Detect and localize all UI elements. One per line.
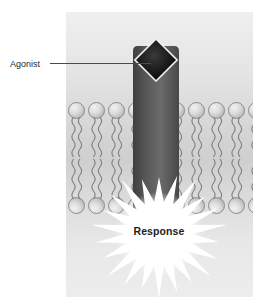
- lipid-head: [228, 197, 245, 214]
- lipid-tails: [247, 158, 253, 199]
- phospholipid-icon: [227, 158, 247, 214]
- phospholipid-icon: [247, 158, 253, 214]
- phospholipid-icon: [67, 102, 87, 158]
- lipid-tails: [227, 158, 247, 199]
- lipid-head: [68, 197, 85, 214]
- phospholipid-icon: [87, 102, 107, 158]
- agonist-leader-line: [50, 63, 151, 64]
- response-label: Response: [92, 225, 226, 237]
- agonist-callout-label: Agonist: [10, 57, 70, 71]
- lipid-tails: [247, 117, 253, 158]
- agonist-diamond-icon: [134, 38, 178, 82]
- lipid-tails: [87, 117, 107, 158]
- lipid-tails: [227, 117, 247, 158]
- lipid-tails: [187, 117, 207, 158]
- lipid-tails: [107, 117, 127, 158]
- phospholipid-icon: [247, 102, 253, 158]
- figure-canvas: Response Agonist: [0, 0, 275, 306]
- lipid-tails: [207, 117, 227, 158]
- phospholipid-icon: [187, 102, 207, 158]
- lipid-tails: [67, 158, 87, 199]
- illustration-panel: Response: [66, 12, 253, 297]
- lipid-tails: [67, 117, 87, 158]
- phospholipid-icon: [207, 102, 227, 158]
- phospholipid-icon: [67, 158, 87, 214]
- phospholipid-icon: [227, 102, 247, 158]
- lipid-head: [248, 197, 253, 214]
- clipped-caption-strip: [0, 0, 275, 6]
- phospholipid-icon: [107, 102, 127, 158]
